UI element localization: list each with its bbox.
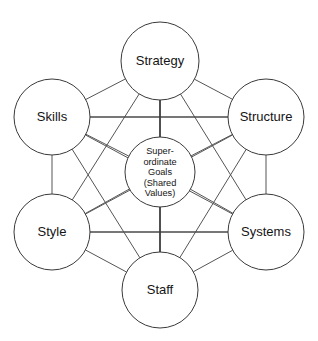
center-label-line-4: (Shared: [144, 178, 177, 188]
node-label-structure: Structure: [240, 109, 293, 124]
node-label-systems: Systems: [241, 224, 291, 239]
sevens-framework-diagram: StrategyStructureSystemsStaffStyleSkills…: [0, 0, 318, 341]
node-label-staff: Staff: [147, 282, 174, 297]
diagram-canvas: StrategyStructureSystemsStaffStyleSkills…: [0, 0, 318, 341]
connection-center-style: [85, 189, 129, 214]
connection-center-structure: [191, 135, 232, 156]
node-label-skills: Skills: [37, 109, 68, 124]
node-structure[interactable]: Structure: [228, 79, 304, 155]
node-style[interactable]: Style: [14, 194, 90, 270]
node-superordinate-goals[interactable]: Super-ordinateGoals(SharedValues): [125, 137, 195, 207]
connection-strategy-structure: [194, 79, 232, 99]
node-skills[interactable]: Skills: [14, 79, 90, 155]
node-systems[interactable]: Systems: [228, 194, 304, 270]
connection-systems-staff: [193, 250, 232, 272]
connection-center-skills: [86, 134, 129, 156]
center-label-line-1: Super-: [146, 146, 174, 156]
connection-center-systems: [190, 189, 232, 213]
connection-strategy-skills: [86, 79, 126, 100]
node-strategy[interactable]: Strategy: [121, 22, 199, 100]
center-label-line-3: Goals: [148, 167, 172, 177]
node-label-style: Style: [38, 224, 67, 239]
connection-staff-style: [85, 250, 126, 272]
center-node-group: Super-ordinateGoals(SharedValues): [125, 137, 195, 207]
node-staff[interactable]: Staff: [122, 252, 198, 328]
center-label-line-2: ordinate: [143, 157, 176, 167]
center-label-line-5: Values): [145, 188, 175, 198]
node-label-strategy: Strategy: [136, 53, 185, 68]
